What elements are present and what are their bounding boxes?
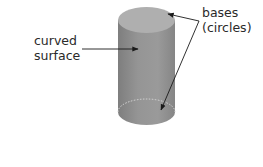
curved-surface-label-line2: surface [34, 48, 80, 63]
bases-label-line1: bases [202, 5, 252, 20]
top-base [118, 7, 175, 33]
curved-surface-label: curved surface [34, 33, 80, 63]
bases-label: bases (circles) [202, 5, 252, 35]
cylinder-curved-surface [118, 20, 175, 125]
curved-surface-label-line1: curved [34, 33, 80, 48]
bases-label-line2: (circles) [202, 20, 252, 35]
cylinder [118, 7, 175, 125]
cylinder-diagram: curved surface bases (circles) [0, 0, 263, 167]
